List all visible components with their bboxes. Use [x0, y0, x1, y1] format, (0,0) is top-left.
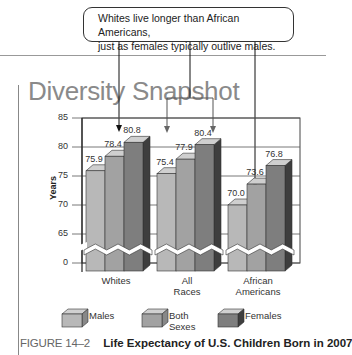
legend-label: Females [245, 310, 281, 321]
category-label: Whites [81, 275, 151, 286]
bar-both-sexes [247, 184, 266, 271]
y-tick-label: 85 [44, 112, 68, 122]
y-tick-label: 75 [44, 170, 68, 180]
bar-males [228, 205, 247, 271]
figure-number: FIGURE 14–2 [20, 337, 90, 349]
callout-bracket [167, 98, 213, 128]
figure-caption: FIGURE 14–2 Life Expectancy of U.S. Chil… [20, 337, 352, 349]
legend-swatch-both-sexes [142, 314, 162, 327]
value-label: 75.4 [153, 157, 177, 167]
bar-females [266, 166, 285, 271]
y-tick-label: 65 [44, 228, 68, 238]
legend-swatch-females [218, 314, 238, 327]
value-label: 75.9 [82, 154, 106, 164]
y-tick-label: 0 [44, 257, 68, 267]
y-tick-label: 80 [44, 141, 68, 151]
value-label: 70.0 [224, 188, 248, 198]
value-label: 73.6 [243, 167, 267, 177]
arrow-icon [164, 126, 170, 133]
value-label: 78.4 [101, 139, 125, 149]
legend-label: Males [89, 310, 114, 321]
legend-swatch-males [62, 314, 82, 327]
category-label: AllRaces [152, 275, 222, 297]
category-label: AfricanAmericans [223, 275, 293, 297]
caption-text: Life Expectancy of U.S. Children Born in… [103, 337, 352, 349]
value-label: 80.4 [191, 128, 215, 138]
bar-side [285, 160, 292, 271]
bar-males [157, 174, 176, 271]
legend-label: BothSexes [169, 310, 195, 332]
value-label: 77.9 [172, 142, 196, 152]
value-label: 76.8 [262, 149, 286, 159]
bar-males [86, 171, 105, 271]
y-tick-label: 70 [44, 199, 68, 209]
value-label: 80.8 [120, 125, 144, 135]
